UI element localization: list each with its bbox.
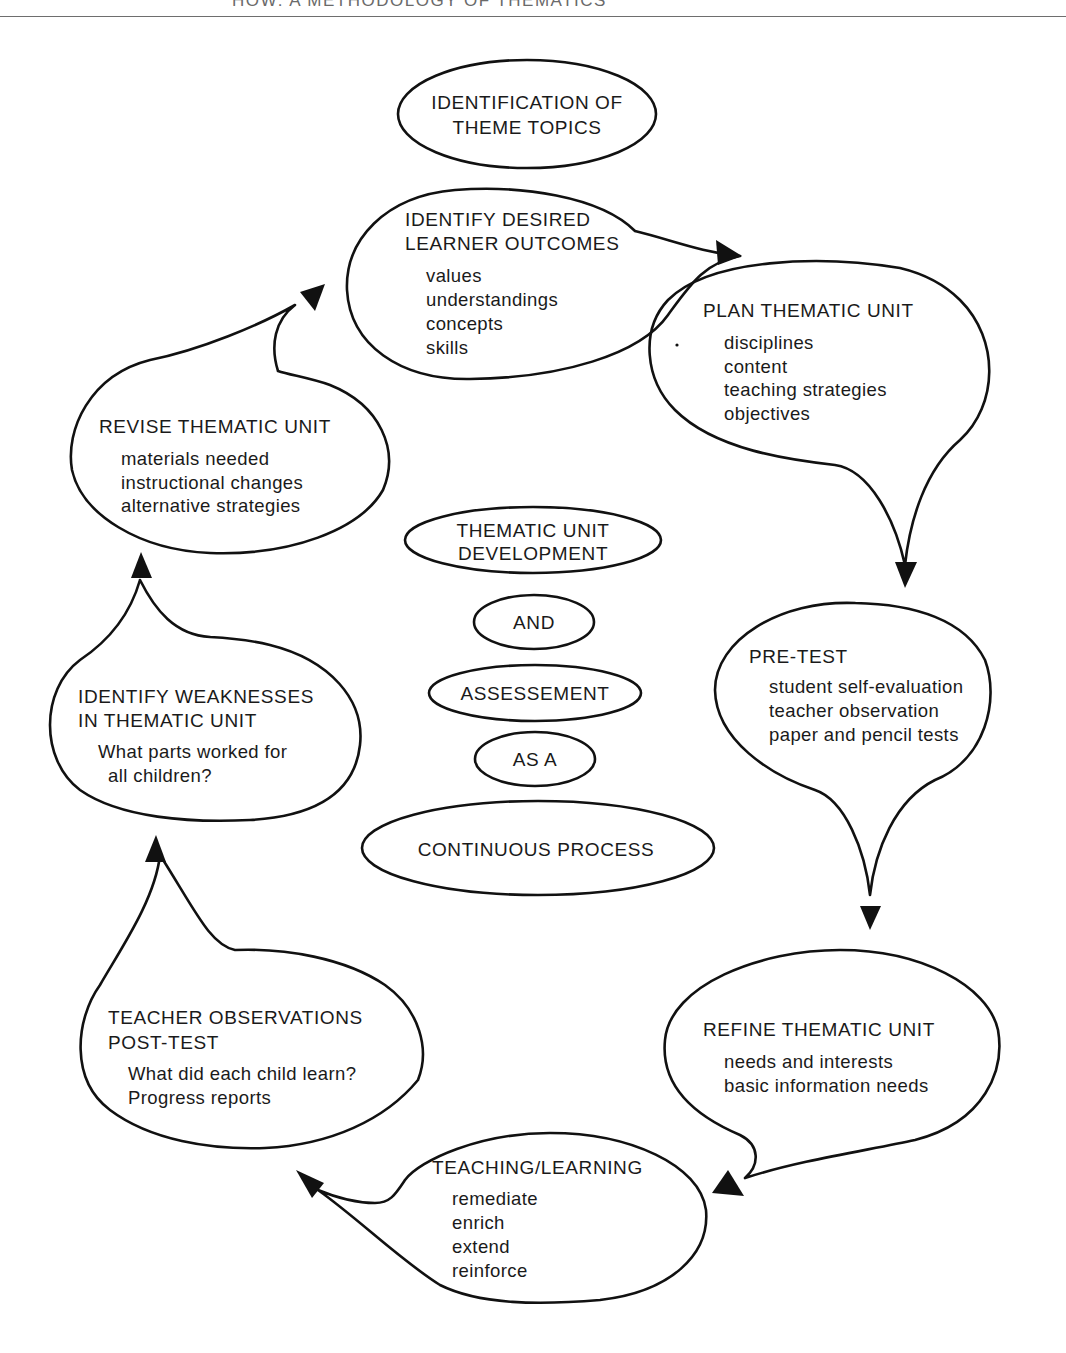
node-title: REVISE THEMATIC UNIT <box>99 417 331 436</box>
node-item: extend <box>452 1238 510 1257</box>
center-title-line2: DEVELOPMENT <box>423 544 643 563</box>
node-item: skills <box>426 339 468 358</box>
node-item: paper and pencil tests <box>769 726 959 745</box>
node-item: basic information needs <box>724 1077 929 1096</box>
arrow-head-icon <box>712 1170 744 1196</box>
node-item: teacher observation <box>769 702 939 721</box>
start-node-line2: THEME TOPICS <box>417 118 637 137</box>
node-title: POST-TEST <box>108 1033 219 1052</box>
node-title: TEACHING/LEARNING <box>432 1158 643 1177</box>
arrow-head-icon <box>895 562 917 588</box>
node-item: disciplines <box>724 334 814 353</box>
node-item: values <box>426 267 482 286</box>
stray-dot <box>675 343 678 346</box>
center-word-and: AND <box>474 613 594 632</box>
node-item: remediate <box>452 1190 538 1209</box>
node-item: understandings <box>426 291 558 310</box>
node-item: enrich <box>452 1214 505 1233</box>
node-item: reinforce <box>452 1262 528 1281</box>
start-node-shape <box>398 60 656 168</box>
node-item: needs and interests <box>724 1053 893 1072</box>
center-word-assessment: ASSESSEMENT <box>430 684 640 703</box>
node-item: teaching strategies <box>724 381 887 400</box>
center-title-line1: THEMATIC UNIT <box>423 521 643 540</box>
arrow-head-icon <box>131 552 152 578</box>
arrow-head-icon <box>716 240 742 265</box>
node-item: What did each child learn? <box>128 1065 356 1084</box>
node-title: LEARNER OUTCOMES <box>405 234 619 253</box>
node-title: IN THEMATIC UNIT <box>78 711 257 730</box>
arrow-head-icon <box>145 835 166 862</box>
node-title: REFINE THEMATIC UNIT <box>703 1020 935 1039</box>
node-item: alternative strategies <box>121 497 301 516</box>
node-title: PRE-TEST <box>749 647 848 666</box>
node-item: What parts worked for <box>98 743 287 762</box>
start-node-line1: IDENTIFICATION OF <box>417 93 637 112</box>
node-item: student self-evaluation <box>769 678 963 697</box>
node-item: instructional changes <box>121 474 303 493</box>
node-title: IDENTIFY WEAKNESSES <box>78 687 314 706</box>
node-title: TEACHER OBSERVATIONS <box>108 1008 363 1027</box>
arrow-head-icon <box>860 906 881 930</box>
node-title: IDENTIFY DESIRED <box>405 210 591 229</box>
node-item: Progress reports <box>128 1089 271 1108</box>
node-item: all children? <box>108 767 212 786</box>
center-word-process: CONTINUOUS PROCESS <box>386 840 686 859</box>
node-item: concepts <box>426 315 503 334</box>
node-item: objectives <box>724 405 810 424</box>
node-title: PLAN THEMATIC UNIT <box>703 301 914 320</box>
arrow-head-icon <box>296 1170 324 1198</box>
node-item: content <box>724 358 788 377</box>
center-word-as-a: AS A <box>475 750 595 769</box>
node-item: materials needed <box>121 450 269 469</box>
arrow-head-icon <box>300 284 325 311</box>
